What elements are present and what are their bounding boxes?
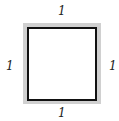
- side-label-right: 1: [109, 60, 117, 72]
- side-label-bottom: 1: [58, 107, 66, 119]
- square: [27, 27, 97, 101]
- side-label-top: 1: [58, 5, 66, 17]
- side-label-left: 1: [6, 60, 14, 72]
